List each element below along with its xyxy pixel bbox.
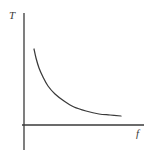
x-axis-label: f — [136, 128, 139, 139]
curve-group — [34, 49, 121, 116]
y-axis-label: T — [9, 10, 15, 21]
axes-group — [22, 13, 144, 150]
figure-root: T f — [0, 0, 150, 157]
data-curve-0 — [34, 49, 121, 116]
plot-canvas — [0, 0, 150, 157]
